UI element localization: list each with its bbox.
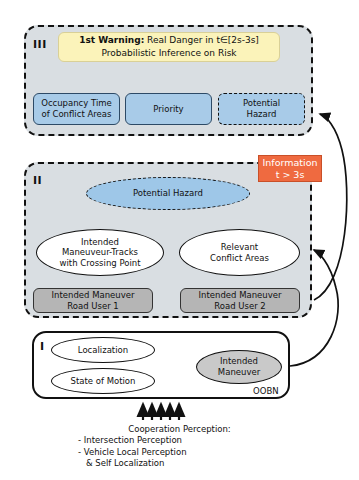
ellipse-state-of-motion-label: State of Motion bbox=[71, 376, 136, 387]
ellipse-conflict-line1: Relevant bbox=[221, 242, 258, 253]
ellipse-tracks-line1: Intended bbox=[81, 237, 119, 248]
level2-numeral: II bbox=[33, 174, 42, 187]
warning-line-2: Probabilistic Inference on Risk bbox=[101, 47, 236, 60]
node-intended-maneuver-user-1[interactable]: Intended Maneuver Road User 1 bbox=[33, 288, 153, 313]
ellipse-tracks-line2: Maneuveur-Tracks bbox=[62, 247, 138, 258]
caption-item-1: - Intersection Perception bbox=[0, 435, 359, 446]
ellipse-tracks-line3: with Crossing Point bbox=[60, 258, 141, 269]
ellipse-potential-hazard[interactable]: Potential Hazard bbox=[86, 177, 250, 210]
warning-box: 1st Warning: Real Danger in t∈[2s-3s] Pr… bbox=[58, 32, 280, 62]
information-badge: Information t > 3s bbox=[258, 155, 322, 182]
ellipse-intended-maneuver[interactable]: Intended Maneuver bbox=[196, 350, 282, 384]
information-badge-line1: Information bbox=[263, 157, 318, 169]
perception-arrows bbox=[143, 404, 179, 420]
ellipse-localization[interactable]: Localization bbox=[51, 337, 155, 363]
node-user1-line1: Intended Maneuver bbox=[52, 290, 135, 301]
ellipse-potential-hazard-label: Potential Hazard bbox=[133, 188, 203, 199]
warning-rest: Real Danger in t∈[2s-3s] bbox=[144, 35, 259, 45]
oobn-label: OOBN bbox=[253, 386, 279, 396]
node-potential-hazard-ref-line2: Hazard bbox=[246, 109, 276, 120]
perception-caption: Cooperation Perception: - Intersection P… bbox=[0, 424, 359, 470]
information-badge-line2: t > 3s bbox=[276, 169, 305, 181]
arrow-level2-to-level3 bbox=[314, 114, 347, 300]
level1-numeral: I bbox=[40, 340, 45, 353]
ellipse-intended-maneuver-line1: Intended bbox=[220, 356, 258, 367]
node-occupancy-time-line2: of Conflict Areas bbox=[42, 109, 112, 120]
caption-heading: Cooperation Perception: bbox=[0, 424, 359, 435]
node-user2-line2: Road User 2 bbox=[214, 301, 266, 312]
ellipse-state-of-motion[interactable]: State of Motion bbox=[51, 368, 155, 394]
ellipse-intended-maneuver-tracks[interactable]: Intended Maneuveur-Tracks with Crossing … bbox=[36, 229, 164, 276]
warning-line-1: 1st Warning: Real Danger in t∈[2s-3s] bbox=[79, 34, 259, 47]
diagram-canvas: III 1st Warning: Real Danger in t∈[2s-3s… bbox=[0, 0, 359, 480]
node-priority-label: Priority bbox=[153, 104, 183, 115]
node-potential-hazard-ref-line1: Potential bbox=[243, 98, 280, 109]
node-user2-line1: Intended Maneuver bbox=[199, 290, 282, 301]
warning-strong: 1st Warning: bbox=[79, 35, 144, 45]
node-potential-hazard-ref[interactable]: Potential Hazard bbox=[218, 93, 305, 125]
node-occupancy-time[interactable]: Occupancy Time of Conflict Areas bbox=[33, 93, 120, 125]
ellipse-intended-maneuver-line2: Maneuver bbox=[218, 367, 260, 378]
node-occupancy-time-line1: Occupancy Time bbox=[41, 98, 112, 109]
node-intended-maneuver-user-2[interactable]: Intended Maneuver Road User 2 bbox=[180, 288, 300, 313]
caption-item-3: & Self Localization bbox=[0, 458, 359, 469]
level3-numeral: III bbox=[33, 38, 47, 51]
ellipse-conflict-line2: Conflict Areas bbox=[210, 253, 269, 264]
node-user1-line2: Road User 1 bbox=[67, 301, 119, 312]
ellipse-relevant-conflict-areas[interactable]: Relevant Conflict Areas bbox=[179, 229, 300, 276]
ellipse-localization-label: Localization bbox=[78, 345, 128, 356]
caption-item-2: - Vehicle Local Perception bbox=[0, 447, 359, 458]
node-priority[interactable]: Priority bbox=[125, 93, 212, 125]
